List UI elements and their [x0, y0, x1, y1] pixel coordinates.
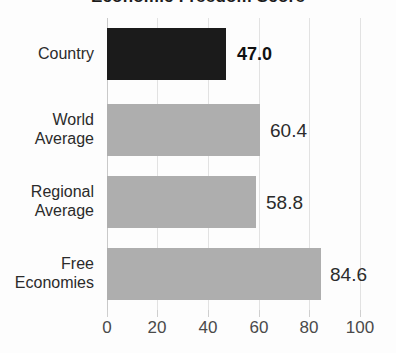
axis-tick-label-20: 20 — [132, 318, 182, 338]
category-label-world-average-line2: Average — [0, 129, 94, 148]
axis-tick-label-100: 100 — [335, 318, 385, 338]
value-label-world-average: 60.4 — [270, 120, 307, 142]
category-label-world-average-line1: World — [0, 110, 94, 129]
category-label-world-average: World Average — [0, 110, 94, 148]
value-label-regional-average: 58.8 — [266, 192, 303, 214]
bar-chart: Economic Freedom Score Country World Ave… — [0, 0, 396, 353]
tick-80 — [309, 310, 310, 317]
tick-60 — [259, 310, 260, 317]
tick-0 — [107, 310, 108, 317]
plot-area — [107, 18, 360, 310]
category-label-country-line1: Country — [0, 44, 94, 63]
category-label-free-economies-line1: Free — [0, 254, 94, 273]
category-label-free-economies-line2: Economies — [0, 273, 94, 292]
bar-regional-average — [107, 176, 256, 228]
value-label-free-economies: 84.6 — [330, 264, 367, 286]
category-label-regional-average-line2: Average — [0, 201, 94, 220]
tick-40 — [208, 310, 209, 317]
axis-tick-label-0: 0 — [82, 318, 132, 338]
chart-title-text: Economic Freedom Score — [0, 0, 396, 5]
category-label-regional-average: Regional Average — [0, 182, 94, 220]
value-label-country: 47.0 — [237, 44, 272, 65]
bar-country — [107, 28, 226, 80]
bar-free-economies — [107, 248, 321, 300]
bar-world-average — [107, 104, 260, 156]
axis-tick-label-60: 60 — [234, 318, 284, 338]
axis-tick-label-80: 80 — [284, 318, 334, 338]
category-label-regional-average-line1: Regional — [0, 182, 94, 201]
chart-title-clipped: Economic Freedom Score — [0, 0, 396, 5]
category-label-country: Country — [0, 44, 94, 63]
axis-tick-label-40: 40 — [183, 318, 233, 338]
category-label-free-economies: Free Economies — [0, 254, 94, 292]
tick-20 — [157, 310, 158, 317]
tick-100 — [360, 310, 361, 317]
